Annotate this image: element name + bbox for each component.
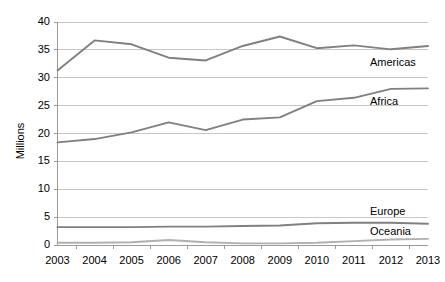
gridlines-group [58, 22, 429, 245]
x-axis-ticks-group [76, 245, 409, 249]
y-axis-ticks-group [54, 22, 58, 245]
series-lines-group [58, 37, 429, 244]
series-line-africa [58, 88, 429, 142]
series-line-europe [58, 223, 429, 227]
series-line-americas [58, 37, 429, 71]
series-line-oceania [58, 239, 429, 243]
